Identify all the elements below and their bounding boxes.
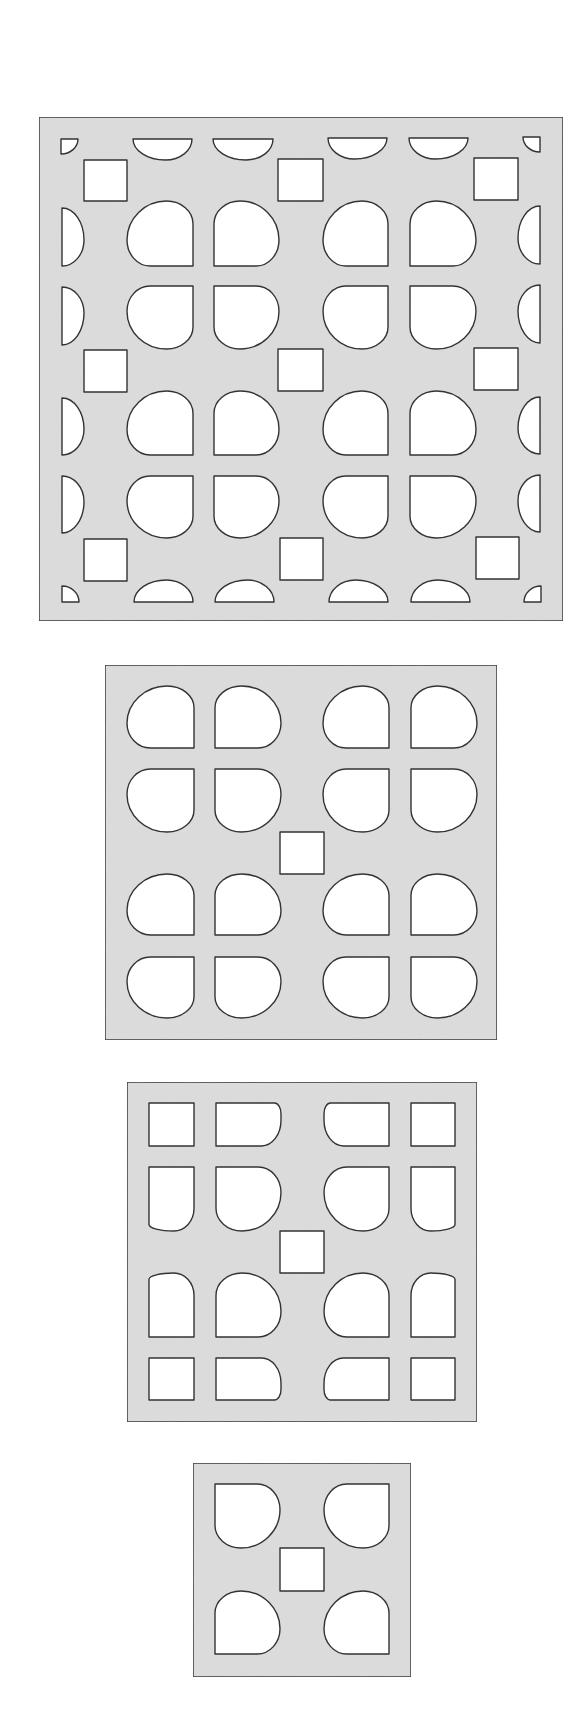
rounded-edge-opening bbox=[149, 1273, 194, 1337]
square-opening bbox=[280, 832, 324, 874]
square-opening bbox=[280, 538, 323, 580]
square-opening bbox=[84, 350, 127, 392]
square-opening bbox=[476, 537, 519, 579]
rounded-edge-opening bbox=[411, 1167, 455, 1231]
panel-1 bbox=[39, 117, 563, 621]
pattern-figure bbox=[0, 0, 576, 1725]
square-opening bbox=[411, 1358, 455, 1400]
rounded-edge-opening bbox=[324, 1358, 389, 1400]
square-opening bbox=[278, 349, 323, 391]
square-opening bbox=[280, 1231, 324, 1273]
square-opening bbox=[411, 1103, 455, 1146]
square-opening bbox=[280, 1548, 324, 1591]
square-opening bbox=[474, 348, 518, 390]
square-opening bbox=[149, 1103, 194, 1146]
rounded-edge-opening bbox=[216, 1358, 281, 1400]
rounded-edge-opening bbox=[324, 1103, 389, 1146]
panel-3 bbox=[127, 1082, 477, 1422]
square-opening bbox=[278, 159, 323, 201]
square-opening bbox=[474, 158, 518, 200]
panel-2 bbox=[105, 665, 497, 1040]
panel-4 bbox=[193, 1463, 411, 1677]
square-opening bbox=[149, 1358, 194, 1400]
rounded-edge-opening bbox=[149, 1167, 194, 1231]
square-opening bbox=[84, 539, 127, 581]
rounded-edge-opening bbox=[411, 1273, 455, 1337]
square-opening bbox=[84, 160, 127, 201]
rounded-edge-opening bbox=[216, 1103, 281, 1146]
